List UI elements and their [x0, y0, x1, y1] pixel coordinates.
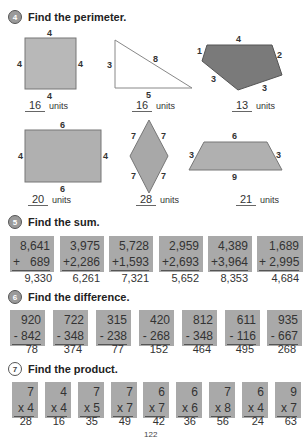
- product-answer: 28: [12, 415, 32, 427]
- product-answer: 24: [242, 415, 264, 427]
- sum-answer: 8,353: [208, 272, 248, 284]
- shape-label: 4: [47, 28, 52, 38]
- product-answer: 56: [209, 415, 229, 427]
- section-title: Find the difference.: [28, 291, 129, 303]
- square-shape: [25, 38, 76, 89]
- product-problem: 7x 7: [111, 382, 137, 418]
- shape-label: 3: [262, 83, 267, 93]
- sum-answer: 7,321: [109, 272, 149, 284]
- sum-answer: 4,684: [257, 272, 299, 284]
- product-problem: 7x 4: [12, 382, 38, 418]
- difference-answer: 78: [10, 343, 38, 355]
- shape-label: 7: [161, 171, 166, 181]
- section-difference-header: 6 Find the difference.: [8, 290, 129, 304]
- difference-answer: 77: [96, 343, 124, 355]
- shape-label: 6: [60, 120, 65, 130]
- shape-label: 3: [107, 60, 112, 70]
- answer-rhombus: 28units: [136, 193, 179, 206]
- page-number: 122: [144, 430, 157, 439]
- sum-problem: 4,389+3,964: [208, 236, 252, 272]
- difference-answer: 495: [225, 343, 254, 355]
- answer-pentagon: 13units: [232, 99, 275, 112]
- product-problem: 6x 6: [176, 382, 202, 418]
- shape-label: 8: [153, 54, 158, 64]
- shape-label: 2: [277, 50, 282, 60]
- product-problem: 6x 7: [143, 382, 169, 418]
- shape-label: 7: [161, 131, 166, 141]
- difference-answer: 152: [139, 343, 168, 355]
- shape-label: 9: [232, 172, 237, 182]
- shape-label: 3: [276, 150, 281, 160]
- product-answer: 35: [78, 415, 98, 427]
- section-number-badge: 5: [8, 215, 22, 229]
- answer-square: 16units: [25, 99, 68, 112]
- answer-rectangle: 20units: [28, 193, 71, 206]
- sum-problem: 8,641+ 689: [10, 236, 54, 272]
- shape-label: 4: [236, 34, 241, 44]
- product-problem: 7x 8: [209, 382, 235, 418]
- sum-problem: 2,959+2,693: [159, 236, 203, 272]
- difference-answer: 374: [53, 343, 82, 355]
- shape-label: 3: [189, 150, 194, 160]
- shape-label: 4: [103, 151, 108, 161]
- section-number-badge: 7: [8, 362, 22, 376]
- section-title: Find the product.: [28, 363, 118, 375]
- answer-triangle: 16units: [132, 99, 175, 112]
- product-problem: 4x 4: [45, 382, 71, 418]
- product-answer: 63: [275, 415, 297, 427]
- section-product-header: 7 Find the product.: [8, 362, 118, 376]
- sum-answer: 5,652: [159, 272, 199, 284]
- difference-problem: 420- 268: [139, 310, 174, 346]
- section-title: Find the sum.: [28, 216, 100, 228]
- difference-problem: 812- 348: [182, 310, 217, 346]
- product-problem: 6x 4: [242, 382, 268, 418]
- difference-problem: 920- 842: [10, 310, 45, 346]
- sum-answer: 9,330: [10, 272, 52, 284]
- sum-problem: 3,975+2,286: [60, 236, 104, 272]
- shape-label: 6: [232, 131, 237, 141]
- rectangle-shape: [25, 130, 101, 182]
- shape-label: 3: [211, 74, 216, 84]
- shape-label: 4: [17, 59, 22, 69]
- difference-answer: 268: [267, 343, 296, 355]
- sum-problem: 1,689+ 2,995: [257, 236, 303, 272]
- triangle-shape: [115, 40, 192, 88]
- difference-problem: 315- 238: [96, 310, 131, 346]
- difference-problem: 722- 348: [53, 310, 88, 346]
- product-answer: 36: [176, 415, 196, 427]
- answer-trapezoid: 21units: [236, 193, 279, 206]
- difference-problem: 611- 116: [225, 310, 260, 346]
- product-answer: 49: [111, 415, 131, 427]
- shape-label: 4: [18, 151, 23, 161]
- shape-label: 4: [78, 59, 83, 69]
- shape-label: 7: [131, 131, 136, 141]
- section-sum-header: 5 Find the sum.: [8, 215, 100, 229]
- difference-answer: 464: [182, 343, 211, 355]
- product-problem: 7x 5: [78, 382, 104, 418]
- difference-problem: 935- 667: [267, 310, 302, 346]
- shape-label: 1: [197, 46, 202, 56]
- sum-problem: 5,728+1,593: [109, 236, 153, 272]
- shape-label: 7: [131, 171, 136, 181]
- product-answer: 16: [45, 415, 65, 427]
- product-problem: 9x 7: [275, 382, 301, 418]
- sum-answer: 6,261: [60, 272, 100, 284]
- section-number-badge: 6: [8, 290, 22, 304]
- trapezoid-shape: [189, 142, 282, 170]
- product-answer: 42: [143, 415, 165, 427]
